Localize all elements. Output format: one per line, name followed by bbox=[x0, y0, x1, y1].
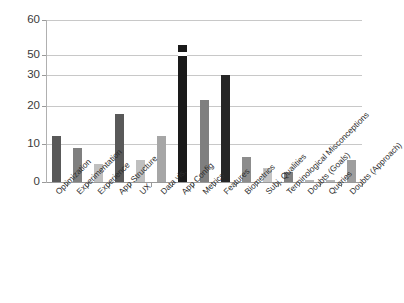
x-axis-label-ux: UX bbox=[138, 182, 152, 196]
bar-rect bbox=[52, 136, 61, 182]
bar-data-vis[interactable] bbox=[157, 20, 166, 182]
bar-metrics[interactable] bbox=[200, 20, 209, 182]
y-tick-label-50: 50 bbox=[16, 49, 40, 61]
y-tick-mark-0 bbox=[42, 182, 46, 183]
bar-optimization[interactable] bbox=[52, 20, 61, 182]
y-tick-label-10: 10 bbox=[16, 138, 40, 150]
bar-experience[interactable] bbox=[94, 20, 103, 182]
bar-terminological-misconceptions[interactable] bbox=[284, 20, 293, 182]
bar-app-config[interactable] bbox=[178, 20, 187, 182]
bar-ux[interactable] bbox=[136, 20, 145, 182]
y-tick-label-30: 30 bbox=[16, 69, 40, 81]
bar-biometrics[interactable] bbox=[242, 20, 251, 182]
bar-experimentation[interactable] bbox=[73, 20, 82, 182]
bar-rect bbox=[178, 45, 187, 183]
y-tick-label-0: 0 bbox=[16, 176, 40, 188]
y-tick-label-20: 20 bbox=[16, 100, 40, 112]
axis-break-notch bbox=[178, 52, 187, 56]
bar-subj-qualities[interactable] bbox=[263, 20, 272, 182]
bar-rect bbox=[221, 75, 230, 182]
y-tick-label-60: 60 bbox=[16, 14, 40, 26]
bar-features[interactable] bbox=[221, 20, 230, 182]
